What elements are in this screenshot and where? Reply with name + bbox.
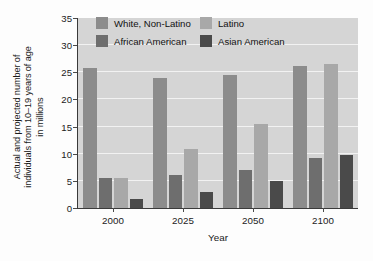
bar [114, 178, 128, 208]
x-axis-tick-label: 2025 [153, 215, 213, 226]
bar [169, 175, 183, 208]
bar [239, 170, 253, 208]
legend-label: White, Non-Latino [114, 18, 191, 29]
x-axis-line [77, 208, 358, 209]
bar [324, 64, 338, 208]
legend-swatch [200, 35, 212, 47]
y-axis-tick-label: 5 [50, 175, 72, 186]
bar-chart-figure: Actual and projected number of individua… [0, 0, 373, 261]
grid-line [78, 98, 358, 99]
x-axis-tick-mark [323, 208, 324, 212]
y-axis-title-line-2: individuals from 10–19 years of age [23, 46, 33, 188]
y-axis-tick-label: 25 [50, 67, 72, 78]
y-axis-tick-label: 35 [50, 13, 72, 24]
legend-item: Latino [200, 17, 244, 29]
legend-label: African American [114, 36, 187, 47]
bar [293, 66, 307, 208]
y-axis-tick-label: 20 [50, 94, 72, 105]
bar [270, 181, 284, 208]
y-axis-tick-label: 30 [50, 40, 72, 51]
x-axis-tick-mark [253, 208, 254, 212]
y-axis-tick-mark [73, 18, 77, 19]
bar [130, 199, 144, 208]
chart-legend: White, Non-LatinoLatinoAfrican AmericanA… [96, 17, 296, 53]
legend-item: White, Non-Latino [96, 17, 191, 29]
y-axis-tick-label: 15 [50, 121, 72, 132]
y-axis-tick-mark [73, 72, 77, 73]
legend-swatch [96, 35, 108, 47]
grid-line [78, 126, 358, 127]
legend-swatch [200, 17, 212, 29]
legend-swatch [96, 17, 108, 29]
x-axis-tick-label: 2100 [293, 215, 353, 226]
bar [309, 158, 323, 208]
y-axis-tick-mark [73, 181, 77, 182]
y-axis-tick-mark [73, 154, 77, 155]
x-axis-tick-label: 2050 [223, 215, 283, 226]
bar [99, 178, 113, 208]
y-axis-tick-labels: 05101520253035 [50, 14, 72, 214]
bar [83, 68, 97, 208]
y-axis-title-text: Actual and projected number of individua… [12, 46, 46, 188]
grid-line [78, 153, 358, 154]
y-axis-tick-mark [73, 45, 77, 46]
legend-item: Asian American [200, 35, 285, 47]
y-axis-tick-mark [73, 208, 77, 209]
y-axis-tick-label: 10 [50, 148, 72, 159]
y-axis-tick-mark [73, 99, 77, 100]
x-axis-title: Year [78, 232, 358, 243]
bar [153, 78, 167, 208]
y-axis-tick-mark [73, 127, 77, 128]
legend-item: African American [96, 35, 187, 47]
bar [200, 192, 214, 208]
grid-line [78, 71, 358, 72]
y-axis-title-line-3: in millions [35, 97, 45, 136]
x-axis-tick-mark [113, 208, 114, 212]
bar [223, 75, 237, 208]
bar [340, 155, 354, 208]
bar [184, 149, 198, 208]
x-axis-tick-label: 2000 [83, 215, 143, 226]
y-axis-tick-label: 0 [50, 203, 72, 214]
x-axis-tick-mark [183, 208, 184, 212]
legend-label: Latino [218, 18, 244, 29]
legend-label: Asian American [218, 36, 285, 47]
y-axis-title: Actual and projected number of individua… [6, 22, 52, 212]
bar [254, 124, 268, 208]
y-axis-title-line-1: Actual and projected number of [12, 55, 22, 180]
